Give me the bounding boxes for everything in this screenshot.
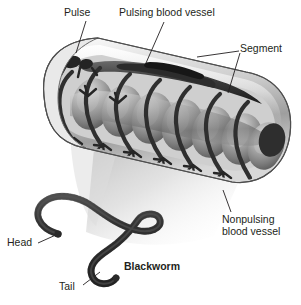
label-nonpulsing-blood-vessel: Nonpulsing blood vessel	[222, 214, 280, 237]
label-blackworm: Blackworm	[124, 261, 180, 273]
blackworm-tail-tip	[113, 275, 119, 281]
label-pulse: Pulse	[64, 7, 90, 19]
label-nonpulsing-line-1: Nonpulsing	[222, 214, 280, 226]
figure-canvas: Pulse Pulsing blood vessel Segment Nonpu…	[0, 0, 301, 305]
blackworm-head-tip	[54, 230, 61, 237]
label-head: Head	[7, 237, 32, 249]
label-nonpulsing-line-2: blood vessel	[222, 226, 280, 238]
label-tail: Tail	[59, 281, 75, 293]
label-segment: Segment	[240, 43, 282, 55]
label-pulsing-blood-vessel: Pulsing blood vessel	[119, 7, 215, 19]
leader-line-segment-a	[197, 51, 239, 57]
